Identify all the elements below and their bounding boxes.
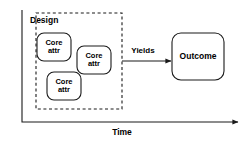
core-attr-label-2: Coreattr <box>77 52 111 68</box>
core-attr-label-1: Coreattr <box>37 39 71 55</box>
design-group-label: Design <box>30 16 58 25</box>
time-axis-label: Time <box>102 128 142 137</box>
core-attr-label-3-line2: attr <box>58 85 70 94</box>
yields-connector-label: Yields <box>127 47 159 55</box>
outcome-label: Outcome <box>172 52 224 61</box>
core-attr-label-2-line2: attr <box>88 59 100 68</box>
core-attr-label-1-line2: attr <box>48 46 60 55</box>
diagram-canvas: Design Coreattr Coreattr Coreattr Yields… <box>0 0 246 146</box>
core-attr-label-3: Coreattr <box>47 78 81 94</box>
